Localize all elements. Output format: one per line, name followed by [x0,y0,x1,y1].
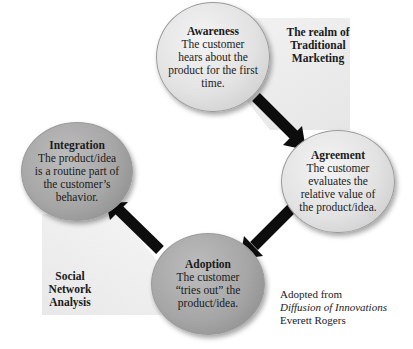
node-desc-line: the product/idea. [299,201,376,214]
node-title: Integration [49,139,105,152]
node-adoption: Adoption The customer “tries out” the pr… [151,233,265,335]
credit-book-title: Diffusion of Innovations [280,301,387,314]
arrow-awareness-to-agreement [256,97,306,150]
node-title: Adoption [185,258,231,271]
label-line: Marketing [283,52,353,65]
node-desc-line: The customer [307,162,370,175]
node-desc-line: The customer [177,271,240,284]
node-desc-line: is a routine part of [35,165,119,178]
node-desc-line: hears about the [178,51,248,64]
node-title: Agreement [311,149,365,162]
node-desc-line: the customer’s [43,178,110,191]
node-title: Awareness [187,25,239,38]
node-awareness: Awareness The customer hears about the p… [156,2,270,112]
node-desc-line: “tries out” the [176,284,241,297]
credit-line: Adopted from [280,288,387,301]
node-desc-line: evaluates the [308,175,368,188]
arrow-adoption-to-integration [106,202,160,250]
node-desc-line: The product/idea [38,152,116,165]
label-line: Social [44,270,96,283]
source-credit: Adopted from Diffusion of Innovations Ev… [280,288,387,327]
node-integration: Integration The product/idea is a routin… [21,122,133,221]
label-line: The realm of [283,26,353,39]
node-desc-line: relative value of [301,188,376,201]
node-desc-line: behavior. [56,191,98,204]
label-line: Network [44,283,96,296]
node-desc-line: The customer [182,38,245,51]
node-desc-line: product for the first [168,64,258,77]
social-network-analysis-label: Social Network Analysis [44,270,96,309]
credit-author: Everett Rogers [280,314,387,327]
node-agreement: Agreement The customer evaluates the rel… [281,130,395,233]
node-desc-line: time. [201,77,224,90]
adoption-cycle-diagram: Awareness The customer hears about the p… [0,0,413,349]
node-desc-line: product/idea. [178,297,238,310]
label-line: Analysis [44,296,96,309]
label-line: Traditional [283,39,353,52]
traditional-marketing-label: The realm of Traditional Marketing [283,26,353,65]
